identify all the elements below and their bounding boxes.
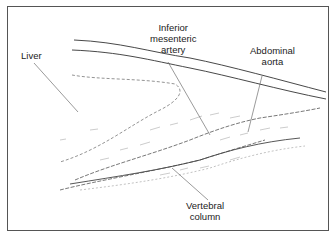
aorta-upper-wall [75, 108, 320, 180]
aorta-pointer [248, 76, 262, 132]
liver-outline [60, 75, 180, 162]
liver-label: Liver [21, 50, 42, 61]
vertebral-pointer [172, 168, 208, 200]
vertebral-column-label: Vertebral column [186, 200, 224, 222]
abdominal-aorta-label: Abdominal aorta [250, 45, 295, 67]
vertebral-column-outline [70, 138, 300, 184]
aorta-lower-wall [60, 140, 265, 190]
liver-pointer [34, 63, 78, 112]
inferior-mesenteric-artery-label: Inferior mesenteric artery [150, 22, 196, 55]
